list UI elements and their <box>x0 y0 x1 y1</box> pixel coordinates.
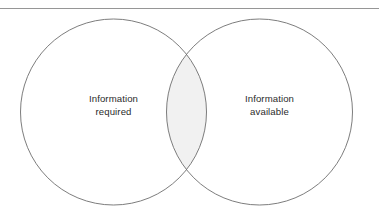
venn-diagram-canvas <box>0 0 379 218</box>
venn-diagram-figure: Information required Information availab… <box>0 0 379 218</box>
